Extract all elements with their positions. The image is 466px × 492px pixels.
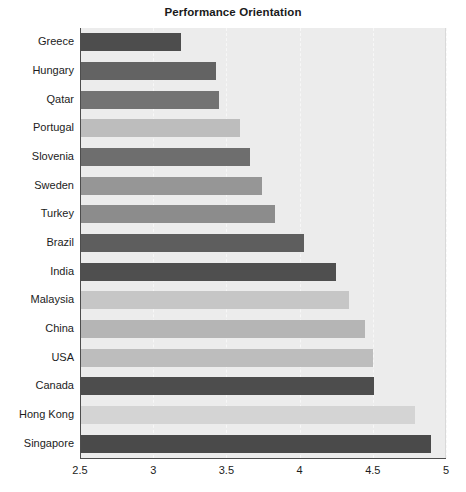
bar-row: [80, 33, 445, 51]
bar-row: [80, 62, 445, 80]
bar-chart: Performance Orientation GreeceHungaryQat…: [0, 0, 466, 492]
y-tick-label: Turkey: [0, 208, 74, 219]
bar-qatar: [80, 91, 219, 109]
bar-row: [80, 377, 445, 395]
bar-singapore: [80, 435, 431, 453]
bar-hungary: [80, 62, 216, 80]
x-tick-label: 3.5: [219, 464, 234, 476]
x-tick-label: 4.5: [365, 464, 380, 476]
gridline: [446, 28, 447, 458]
x-axis-line: [80, 458, 446, 459]
bar-row: [80, 320, 445, 338]
bar-row: [80, 148, 445, 166]
bars-layer: [80, 28, 445, 458]
plot-area: [80, 28, 446, 458]
bar-row: [80, 234, 445, 252]
bar-sweden: [80, 177, 262, 195]
bar-greece: [80, 33, 181, 51]
y-tick-label: Portugal: [0, 122, 74, 133]
x-tick-label: 3: [150, 464, 156, 476]
y-tick-label: Singapore: [0, 438, 74, 449]
bar-china: [80, 320, 365, 338]
x-tick-label: 5: [443, 464, 449, 476]
y-tick-label: Canada: [0, 380, 74, 391]
bar-row: [80, 349, 445, 367]
bar-turkey: [80, 205, 275, 223]
y-tick-label: Sweden: [0, 180, 74, 191]
bar-row: [80, 291, 445, 309]
y-tick-label: India: [0, 266, 74, 277]
y-tick-label: Brazil: [0, 237, 74, 248]
bar-row: [80, 406, 445, 424]
bar-row: [80, 91, 445, 109]
y-tick-label: Hong Kong: [0, 409, 74, 420]
bar-row: [80, 177, 445, 195]
x-tick-label: 2.5: [72, 464, 87, 476]
y-axis-line: [80, 28, 81, 458]
y-tick-label: Slovenia: [0, 151, 74, 162]
bar-malaysia: [80, 291, 349, 309]
bar-row: [80, 205, 445, 223]
y-tick-label: Malaysia: [0, 294, 74, 305]
y-tick-label: USA: [0, 352, 74, 363]
bar-row: [80, 263, 445, 281]
x-tick-label: 4: [297, 464, 303, 476]
y-tick-label: Greece: [0, 36, 74, 47]
chart-title: Performance Orientation: [0, 6, 466, 18]
bar-row: [80, 435, 445, 453]
bar-hong-kong: [80, 406, 415, 424]
bar-canada: [80, 377, 374, 395]
bar-row: [80, 119, 445, 137]
y-tick-label: China: [0, 323, 74, 334]
bar-usa: [80, 349, 373, 367]
bar-portugal: [80, 119, 240, 137]
bar-india: [80, 263, 336, 281]
y-tick-label: Hungary: [0, 65, 74, 76]
y-tick-label: Qatar: [0, 94, 74, 105]
bar-brazil: [80, 234, 304, 252]
bar-slovenia: [80, 148, 250, 166]
